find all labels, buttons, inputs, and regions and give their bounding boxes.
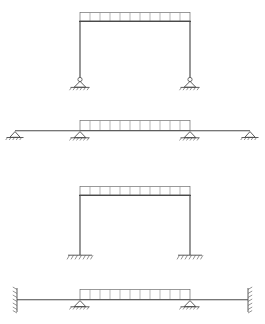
uniform-load-box-2 <box>80 121 190 131</box>
pinned-support-far-left-2 <box>6 132 24 140</box>
panel-rotated-frame-fixed <box>13 287 252 313</box>
structural-diagram-root <box>0 0 265 324</box>
load-segment-ticks-3 <box>90 187 180 196</box>
pinned-support-left-inner-4 <box>70 301 90 310</box>
structural-diagram-canvas <box>0 0 265 324</box>
uniform-load-box-4 <box>80 290 190 300</box>
uniform-load-box-3 <box>80 187 190 196</box>
pinned-support-left-inner-2 <box>70 132 90 141</box>
panel-portal-frame-fixed <box>67 187 203 260</box>
pinned-support-far-right-2 <box>241 132 259 140</box>
pinned-support-right-inner-2 <box>180 132 200 141</box>
pinned-support-right-1 <box>180 77 200 90</box>
panel-portal-frame-pinned <box>70 13 200 91</box>
fixed-wall-support-right-4 <box>248 287 252 313</box>
uniform-load-box-1 <box>80 13 190 22</box>
fixed-wall-support-left-4 <box>13 287 17 313</box>
load-segment-ticks-2 <box>90 121 180 131</box>
panel-rotated-frame-pinned <box>6 121 259 141</box>
load-segment-ticks-1 <box>90 13 180 22</box>
load-segment-ticks-4 <box>90 290 180 300</box>
fixed-support-left-3 <box>67 255 93 259</box>
pinned-support-right-inner-4 <box>180 301 200 310</box>
fixed-support-right-3 <box>177 255 203 259</box>
pinned-support-left-1 <box>70 77 90 90</box>
